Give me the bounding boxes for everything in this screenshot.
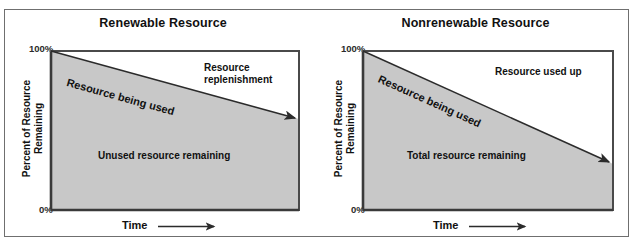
region-label-resource-used-up-line1: Resource used up (495, 66, 582, 77)
region-label-total-resource: Total resource remaining (407, 150, 526, 162)
region-label-resource-used-up: Resource used up (495, 66, 582, 78)
y-axis-title-line2-nonrenewable: Remaining (344, 103, 355, 154)
x-axis-title-renewable: Time (122, 219, 147, 231)
figure-frame: Renewable Resource 100% 0% Percent of Re… (4, 9, 629, 237)
panel-title-nonrenewable: Nonrenewable Resource (321, 16, 630, 30)
region-label-unused-resource: Unused resource remaining (98, 150, 230, 162)
y-axis-title-nonrenewable: Percent of Resource Remaining (333, 59, 356, 199)
panel-title-renewable: Renewable Resource (5, 16, 321, 30)
y-axis-title-line1-nonrenewable: Percent of Resource (333, 80, 344, 177)
panel-nonrenewable-resource: Nonrenewable Resource 100% 0% Percent of… (321, 10, 630, 238)
panel-renewable-resource: Renewable Resource 100% 0% Percent of Re… (5, 10, 321, 238)
y-axis-title-line1-renewable: Percent of Resource (21, 80, 32, 177)
x-axis-arrow-renewable (156, 220, 226, 234)
y-axis-title-line2-renewable: Remaining (32, 103, 43, 154)
x-axis-title-nonrenewable: Time (433, 219, 458, 231)
x-axis-arrow-nonrenewable (467, 220, 537, 234)
y-axis-title-renewable: Percent of Resource Remaining (21, 59, 44, 199)
region-label-replenishment-line1: Resource (204, 62, 250, 73)
figure-root: Renewable Resource 100% 0% Percent of Re… (0, 0, 635, 244)
region-label-replenishment: Resource replenishment (204, 62, 272, 86)
region-label-replenishment-line2: replenishment (204, 74, 272, 85)
